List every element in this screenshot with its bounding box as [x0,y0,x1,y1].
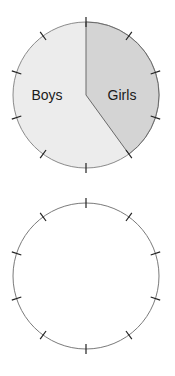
charts-canvas: Boys Girls [0,0,175,376]
pie-chart-blank [12,198,160,354]
boys-label: Boys [31,87,62,103]
girls-label: Girls [108,87,137,103]
pie-chart-filled: Boys Girls [12,17,160,173]
blank-circle [13,203,159,349]
